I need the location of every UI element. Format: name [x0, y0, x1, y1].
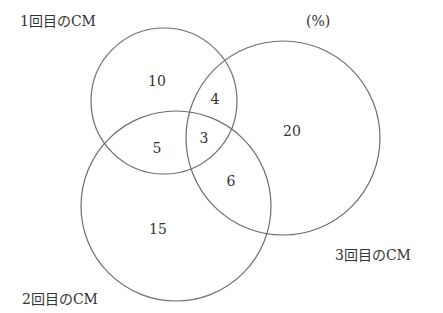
region-value-all-three: 3 — [200, 130, 209, 146]
unit-label: (%) — [306, 13, 330, 29]
region-value-only-1: 10 — [148, 73, 166, 89]
region-value-1-and-3: 4 — [211, 91, 220, 107]
circle-cm-2 — [81, 111, 271, 301]
region-value-1-and-2: 5 — [153, 140, 162, 156]
venn-circles — [0, 0, 443, 313]
region-value-only-3: 20 — [283, 123, 301, 139]
region-value-2-and-3: 6 — [227, 173, 236, 189]
venn-diagram: 1回目のCM (%) 3回目のCM 2回目のCM 10 4 5 3 20 6 1… — [0, 0, 443, 313]
label-cm-1: 1回目のCM — [20, 13, 96, 29]
region-value-only-2: 15 — [149, 221, 167, 237]
label-cm-3: 3回目のCM — [335, 247, 411, 263]
label-cm-2: 2回目のCM — [22, 291, 98, 307]
